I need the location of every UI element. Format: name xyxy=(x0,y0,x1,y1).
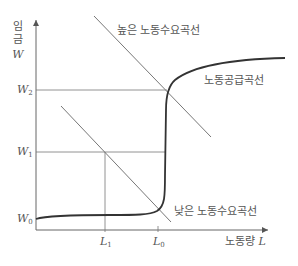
tick-w2-sub: 2 xyxy=(28,89,32,97)
tick-w0: W0 xyxy=(17,213,33,226)
tick-w1: W1 xyxy=(17,146,33,159)
low-demand-label: 낮은 노동수요곡선 xyxy=(174,206,258,217)
x-axis-label-text: 노동량 xyxy=(225,235,255,248)
tick-w2-base: W xyxy=(17,83,28,96)
high-demand-label: 높은 노동수요곡선 xyxy=(117,25,201,36)
y-axis-symbol: W xyxy=(12,48,24,61)
x-axis-label: 노동량 L xyxy=(225,236,266,247)
tick-l1-sub: 1 xyxy=(107,241,111,249)
x-axis-symbol: L xyxy=(259,235,266,248)
y-axis-label-char-2: 금 xyxy=(12,33,24,46)
tick-l1: L1 xyxy=(100,236,112,249)
tick-w0-sub: 0 xyxy=(28,218,32,226)
labor-market-diagram xyxy=(0,0,298,266)
low-demand-curve xyxy=(61,106,171,222)
tick-l0: L0 xyxy=(153,236,165,249)
tick-l0-sub: 0 xyxy=(160,241,164,249)
supply-label: 노동공급곡선 xyxy=(204,75,264,86)
y-axis-label-char-1: 임 xyxy=(12,20,24,33)
tick-w2: W2 xyxy=(17,84,33,97)
y-axis-label: 임 금 W xyxy=(12,20,24,61)
tick-w0-base: W xyxy=(17,212,28,225)
tick-w1-base: W xyxy=(17,145,28,158)
tick-w1-sub: 1 xyxy=(28,151,32,159)
